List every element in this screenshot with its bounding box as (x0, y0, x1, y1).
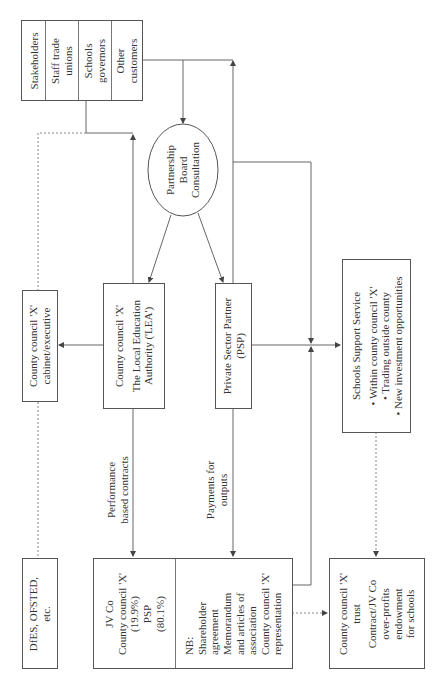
jvco-line: County council 'X' (116, 572, 129, 654)
partnership-board: Partnership Board Consultation (148, 124, 218, 216)
performance-line-1: Performance (105, 456, 118, 524)
lea-line-2: Authority ('LEA') (142, 300, 155, 392)
lea-box: County council 'X' The Local Education A… (103, 283, 165, 409)
schools-support-text: Schools Support Service • Within county … (349, 276, 404, 415)
trust-box: County council 'X' trust Contract/JV Co … (329, 558, 425, 669)
stakeholders-label: Stakeholders (27, 32, 40, 89)
trust-title-2: trust (350, 572, 363, 654)
trust-line: endowment (392, 572, 405, 654)
dfes-line-2: etc. (40, 576, 53, 650)
payments-outputs-label: Payments for outputs (203, 450, 231, 530)
other-customers-label: Other customers (114, 29, 139, 93)
dfes-box: DfES, OFSTED, etc. (22, 558, 58, 669)
lea-title: County council 'X' (113, 300, 126, 392)
performance-contracts-label: Performance based contracts (104, 440, 132, 540)
schools-governors-label: Schools governors (82, 29, 107, 93)
schools-support-title: Schools Support Service (349, 276, 362, 415)
psp-line-1: Private Sector Partner (221, 298, 234, 395)
stakeholders-box: Stakeholders Staff trade unions Schools … (21, 20, 143, 101)
lea-text: County council 'X' The Local Education A… (113, 300, 155, 392)
trust-line: for schools (404, 572, 417, 654)
jvco-box: JV Co County council 'X' (19.9%) PSP (80… (93, 558, 293, 669)
cabinet-box: County council 'X' cabinet/executive (22, 290, 58, 402)
jvco-note-line: representation (271, 572, 284, 654)
jvco-line: PSP (141, 572, 154, 654)
jvco-note-line: NB: (183, 572, 196, 654)
jvco-to-loop-arrow (292, 347, 311, 585)
board-line-3: Consultation (189, 142, 202, 198)
jvco-note-line: Shareholder (196, 572, 209, 654)
board-line-1: Partnership (164, 142, 177, 198)
trust-text: County council 'X' trust Contract/JV Co … (337, 572, 417, 654)
jvco-line: (19.9%) (128, 572, 141, 654)
staff-unions-label: Staff trade unions (49, 29, 74, 93)
cabinet-text: County council 'X' cabinet/executive (27, 305, 52, 387)
jvco-notes-cell: NB: Shareholder agreement Memorandum and… (175, 559, 292, 668)
schools-support-bullet: • Trading outside county (379, 276, 392, 415)
partnership-board-text: Partnership Board Consultation (164, 142, 202, 198)
psp-text: Private Sector Partner (PSP) (221, 298, 246, 395)
board-to-lea-arrow (149, 215, 171, 282)
jvco-notes-text: NB: Shareholder agreement Memorandum and… (183, 572, 284, 654)
psp-box: Private Sector Partner (PSP) (215, 283, 252, 409)
board-to-psp-arrow (198, 213, 223, 282)
schools-support-bullet: • New investment opportunities (391, 276, 404, 415)
jvco-note-line: Memorandum (221, 572, 234, 654)
jvco-line: JV Co (103, 572, 116, 654)
jvco-line: (80.1%) (153, 572, 166, 654)
lea-line-1: The Local Education (130, 300, 143, 392)
other-customers-cell: Other customers (111, 21, 143, 100)
payments-line-1: Payments for (204, 461, 217, 519)
performance-text: Performance based contracts (105, 456, 130, 524)
jvco-note-line: agreement (208, 572, 221, 654)
jvco-note-line: County council 'X' (259, 572, 272, 654)
payments-line-2: outputs (217, 461, 230, 519)
stakeholders-bottom-line (86, 100, 133, 133)
dashed-to-dfes (38, 133, 86, 290)
bullet-text: Within county council 'X' (366, 287, 378, 400)
cabinet-line-1: County council 'X' (27, 305, 40, 387)
schools-support-box: Schools Support Service • Within county … (342, 259, 411, 433)
jvco-note-line: association (246, 572, 259, 654)
bullet-text: New investment opportunities (391, 276, 403, 409)
dfes-line-1: DfES, OFSTED, (27, 576, 40, 650)
trust-line: Contract/JV Co (366, 572, 379, 654)
board-line-2: Board (177, 142, 190, 198)
cabinet-line-2: cabinet/executive (40, 305, 53, 387)
performance-line-2: based contracts (118, 456, 131, 524)
trust-title-1: County council 'X' (337, 572, 350, 654)
jvco-shares-text: JV Co County council 'X' (19.9%) PSP (80… (103, 572, 166, 654)
schools-support-bullet: • Within county council 'X' (366, 276, 379, 415)
staff-unions-cell: Staff trade unions (45, 21, 79, 100)
payments-text: Payments for outputs (204, 461, 229, 519)
dfes-text: DfES, OFSTED, etc. (27, 576, 52, 650)
stakeholders-cell: Stakeholders (22, 21, 46, 100)
trust-line: over-profits (379, 572, 392, 654)
bullet-text: Trading outside county (379, 292, 391, 394)
jvco-note-line: and articles of (234, 572, 247, 654)
psp-line-2: (PSP) (234, 298, 247, 395)
schools-governors-cell: Schools governors (78, 21, 112, 100)
jvco-shares-cell: JV Co County council 'X' (19.9%) PSP (80… (94, 559, 176, 668)
